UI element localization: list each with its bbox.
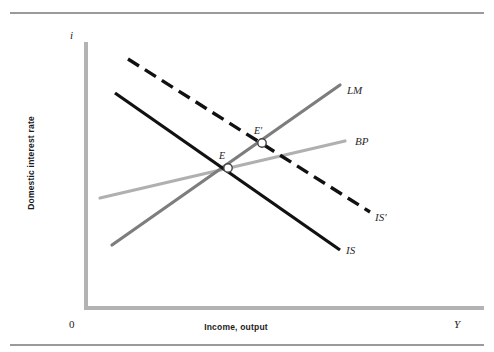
x-axis-symbol: Y — [454, 318, 460, 330]
curve-label-is-prime: IS′ — [375, 211, 387, 223]
curve-is-prime — [128, 59, 370, 212]
curve-label-is: IS — [346, 244, 355, 256]
origin-label: 0 — [69, 318, 75, 330]
y-axis-title: Domestic interest rate — [26, 83, 36, 243]
point-label-e: E — [219, 150, 225, 161]
equilibrium-point-e-prime — [258, 139, 266, 147]
is-lm-bp-figure: i 0 Y Domestic interest rate Income, out… — [0, 0, 494, 352]
point-label-e-prime: E′ — [254, 125, 262, 136]
plot-canvas — [0, 0, 494, 352]
curve-label-bp: BP — [355, 135, 368, 147]
y-axis-symbol: i — [70, 29, 73, 41]
equilibrium-point-e — [224, 164, 232, 172]
x-axis-title: Income, output — [86, 322, 386, 332]
curve-label-lm: LM — [347, 84, 362, 96]
